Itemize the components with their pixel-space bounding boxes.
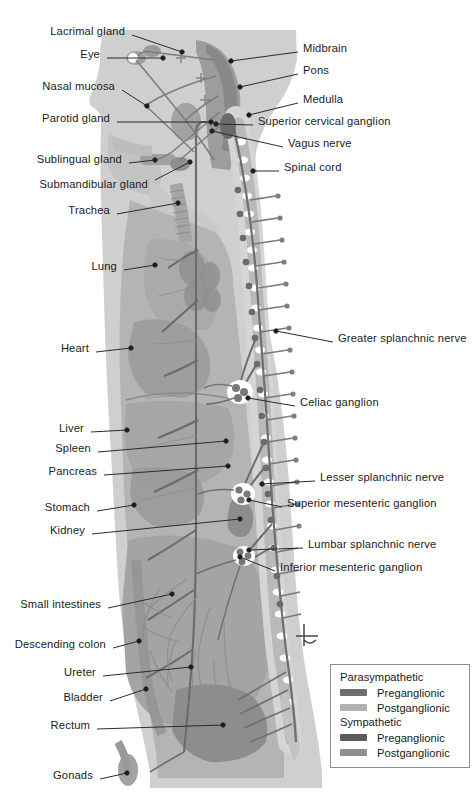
leader-dot-superior-cervical-ganglion [214, 122, 218, 126]
legend-label-para-post: Postganglionic [377, 702, 450, 714]
label-descending-colon: Descending colon [15, 638, 106, 650]
leader-dot-lacrimal-gland [180, 50, 184, 54]
leader-dot-pancreas [226, 464, 230, 468]
label-lacrimal-gland: Lacrimal gland [50, 25, 125, 37]
leader-dot-spinal-cord [251, 169, 255, 173]
leader-dot-eye [161, 56, 165, 60]
label-small-intestines: Small intestines [20, 598, 101, 610]
label-nasal-mucosa: Nasal mucosa [42, 80, 115, 92]
label-stomach: Stomach [45, 501, 90, 513]
legend-row-symp-post: Postganglionic [340, 745, 469, 760]
label-pancreas: Pancreas [49, 465, 97, 477]
leader-dot-lumbar-splanchnic-nerve [247, 548, 251, 552]
legend-label-symp-pre: Preganglionic [377, 732, 445, 744]
legend-box: ParasympatheticPreganglionicPostganglion… [330, 664, 470, 768]
leader-dot-lung [153, 263, 157, 267]
legend-swatch-para-pre [340, 689, 367, 696]
label-celiac-ganglion: Celiac ganglion [300, 396, 379, 408]
label-kidney: Kidney [50, 524, 85, 536]
label-bladder: Bladder [63, 691, 103, 703]
leader-dot-bladder [144, 687, 148, 691]
label-gonads: Gonads [53, 769, 93, 781]
label-superior-cervical-ganglion: Superior cervical ganglion [258, 115, 391, 127]
legend-row-symp-pre: Preganglionic [340, 730, 469, 745]
legend-label-para-pre: Preganglionic [377, 687, 445, 699]
legend-swatch-para-post [340, 704, 367, 711]
leader-dot-spleen [224, 439, 228, 443]
leader-dot-parotid-gland [209, 120, 213, 124]
leader-dot-descending-colon [137, 639, 141, 643]
label-rectum: Rectum [51, 719, 90, 731]
leader-dot-stomach [132, 503, 136, 507]
leader-dot-greater-splanchnic-nerve [274, 329, 278, 333]
legend-swatch-symp-post [340, 749, 367, 756]
leader-dot-heart [129, 346, 133, 350]
label-spinal-cord: Spinal cord [284, 161, 342, 173]
legend-swatch-symp-pre [340, 734, 367, 741]
autonomic-nervous-system-figure: Lacrimal glandEyeNasal mucosaParotid gla… [0, 0, 473, 800]
label-vagus-nerve: Vagus nerve [288, 137, 352, 149]
label-greater-splanchnic-nerve: Greater splanchnic nerve [338, 332, 467, 344]
label-superior-mesenteric-ganglion: Superior mesenteric ganglion [287, 497, 437, 509]
leader-dot-inferior-mesenteric-ganglion [238, 555, 242, 559]
legend-group-title-sympathetic: Sympathetic [340, 715, 469, 729]
label-lumbar-splanchnic-nerve: Lumbar splanchnic nerve [308, 538, 436, 550]
label-ureter: Ureter [64, 666, 96, 678]
legend-group-title-parasympathetic: Parasympathetic [340, 670, 469, 684]
label-submandibular-gland: Submandibular gland [39, 178, 148, 190]
label-medulla: Medulla [303, 93, 343, 105]
label-liver: Liver [59, 422, 84, 434]
legend-label-symp-post: Postganglionic [377, 747, 450, 759]
label-trachea: Trachea [68, 204, 110, 216]
label-midbrain: Midbrain [303, 42, 347, 54]
leader-dot-superior-mesenteric-ganglion [247, 498, 251, 502]
label-lesser-splanchnic-nerve: Lesser splanchnic nerve [320, 471, 444, 483]
label-sublingual-gland: Sublingual gland [37, 153, 122, 165]
leader-dot-lesser-splanchnic-nerve [260, 482, 264, 486]
label-pons: Pons [303, 64, 329, 76]
leader-dot-sublingual-gland [153, 158, 157, 162]
leader-dot-celiac-ganglion [246, 396, 250, 400]
leader-dot-gonads [125, 771, 129, 775]
leader-dot-ureter [189, 665, 193, 669]
leader-dot-liver [125, 428, 129, 432]
label-heart: Heart [61, 342, 89, 354]
legend-row-para-post: Postganglionic [340, 700, 469, 715]
leader-dot-small-intestines [170, 592, 174, 596]
label-parotid-gland: Parotid gland [42, 112, 110, 124]
leader-dot-medulla [247, 113, 251, 117]
legend-row-para-pre: Preganglionic [340, 685, 469, 700]
leader-dot-trachea [176, 201, 180, 205]
leader-dot-nasal-mucosa [145, 104, 149, 108]
leader-dot-submandibular-gland [188, 160, 192, 164]
leader-line-greater-splanchnic-nerve [276, 331, 333, 342]
leader-dot-rectum [221, 723, 225, 727]
label-inferior-mesenteric-ganglion: Inferior mesenteric ganglion [280, 561, 422, 573]
leader-dot-vagus-nerve [210, 129, 214, 133]
leader-dot-kidney [238, 517, 242, 521]
label-lung: Lung [92, 260, 118, 272]
leader-dot-midbrain [229, 59, 233, 63]
label-spleen: Spleen [55, 442, 91, 454]
leader-dot-pons [238, 85, 242, 89]
label-eye: Eye [80, 48, 100, 60]
